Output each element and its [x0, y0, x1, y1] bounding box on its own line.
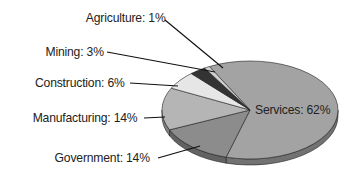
leader-line: [107, 52, 215, 72]
label-mining: Mining: 3%: [46, 44, 104, 59]
label-government: Government: 14%: [55, 150, 150, 165]
label-services: Services: 62%: [255, 102, 330, 117]
label-manufacturing: Manufacturing: 14%: [32, 110, 137, 125]
leader-line: [165, 20, 223, 68]
pie-chart: [0, 0, 356, 181]
label-construction: Construction: 6%: [35, 75, 125, 90]
leader-line: [130, 83, 178, 86]
label-agriculture: Agriculture: 1%: [86, 10, 166, 25]
